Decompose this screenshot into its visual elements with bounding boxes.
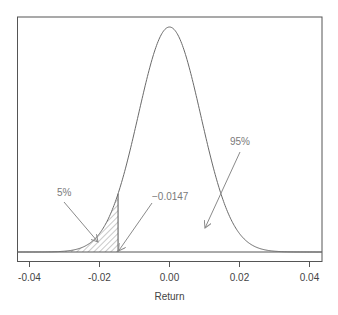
x-tick-label: 0.04	[300, 272, 320, 283]
annotation-95pct: 95%	[230, 136, 250, 147]
x-tick-label: -0.04	[18, 272, 41, 283]
annotation-cutoff-value: −0.0147	[152, 191, 189, 202]
shaded-tail-region	[17, 194, 118, 252]
x-tick-label: 0.00	[160, 272, 180, 283]
x-axis-title: Return	[154, 291, 184, 302]
annotation-95pct-arrow	[205, 152, 240, 228]
normal-distribution-chart: -0.04-0.020.000.020.04 Return 5% −0.0147…	[0, 0, 338, 315]
x-tick-label: -0.02	[88, 272, 111, 283]
plot-frame	[18, 17, 323, 262]
annotation-5pct-arrow	[64, 202, 98, 242]
density-curve	[17, 27, 322, 252]
annotation-cutoff-arrow	[119, 203, 153, 251]
x-axis: -0.04-0.020.000.020.04	[18, 262, 320, 284]
x-tick-label: 0.02	[230, 272, 250, 283]
annotation-5pct: 5%	[57, 187, 72, 198]
